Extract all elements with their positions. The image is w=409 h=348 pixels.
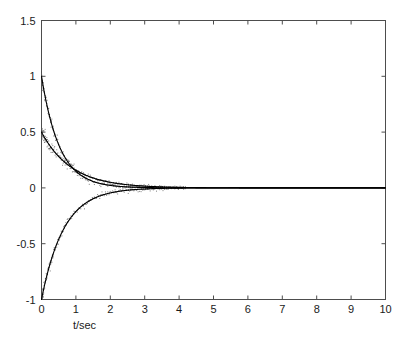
series-marker [77,171,78,172]
series-marker [119,191,120,192]
series-marker [67,221,68,222]
series-marker [109,185,110,186]
scatter-point [45,141,46,142]
scatter-point [133,190,134,191]
scatter-point [117,184,118,185]
scatter-point [53,136,54,137]
series-marker [149,186,150,187]
scatter-point [115,189,116,190]
series-marker [90,180,91,181]
series-marker [132,185,133,186]
series-marker [103,194,104,195]
scatter-point [46,137,47,138]
scatter-point [122,188,123,189]
series-marker [73,214,74,215]
scatter-point [61,231,62,232]
series-marker [122,190,123,191]
series-marker [52,149,53,150]
scatter-point [73,171,74,172]
series-marker [52,254,53,255]
series-marker [166,188,167,189]
series-marker [64,156,65,157]
scatter-point [94,184,95,185]
scatter-point [131,188,132,189]
scatter-point [178,189,179,190]
series-marker [170,188,171,189]
scatter-point [162,190,163,191]
scatter-point [99,198,100,199]
scatter-point [94,196,95,197]
series-marker [120,186,121,187]
scatter-point [139,191,140,192]
x-tick-label: 6 [245,303,251,315]
y-tick-label: -0.5 [17,238,36,250]
series-marker [113,192,114,193]
series-marker [62,231,63,232]
series-marker [81,175,82,176]
scatter-point [118,182,119,183]
x-tick-label: 9 [348,303,354,315]
scatter-point [128,193,129,194]
series-marker [177,188,178,189]
series-marker [141,189,142,190]
scatter-point [77,212,78,213]
scatter-point [129,191,130,192]
series-marker [128,184,129,185]
scatter-point [148,184,149,185]
scatter-point [65,165,66,166]
scatter-point [52,152,53,153]
scatter-point [174,186,175,187]
scatter-point [83,206,84,207]
scatter-point [144,190,145,191]
scatter-point [81,171,82,172]
series-marker [147,186,148,187]
scatter-point [115,184,116,185]
series-marker [124,184,125,185]
scatter-point [102,191,103,192]
scatter-point [63,163,64,164]
scatter-point [56,149,57,150]
scatter-point [144,184,145,185]
x-tick-label: 3 [142,303,148,315]
scatter-point [164,189,165,190]
x-tick-label: 4 [176,303,182,315]
series-marker [153,187,154,188]
series-marker [58,156,59,157]
series-marker [96,197,97,198]
x-tick-label: 10 [379,303,391,315]
series-marker [67,164,68,165]
scatter-point [43,130,44,131]
series-marker [71,216,72,217]
series-marker [79,174,80,175]
series-marker [58,239,59,240]
series-marker [136,185,137,186]
scatter-point [68,161,69,162]
scatter-point [84,208,85,209]
scatter-point [110,191,111,192]
series-marker [109,182,110,183]
x-axis-label: t/sec [73,319,97,331]
scatter-point [71,218,72,219]
scatter-point [73,165,74,166]
scatter-point [112,184,113,185]
series-marker [50,260,51,261]
scatter-point [70,168,71,169]
series-marker [173,188,174,189]
series-marker [83,176,84,177]
scatter-point [90,175,91,176]
scatter-point [65,222,66,223]
scatter-point [57,139,58,140]
x-tick-label: 8 [314,303,320,315]
y-tick-label: -1 [26,294,36,306]
scatter-point [42,128,43,129]
scatter-point [62,165,63,166]
series-marker [117,186,118,187]
series-marker [100,195,101,196]
scatter-point [70,163,71,164]
series-marker [94,181,95,182]
series-marker [149,187,150,188]
series-marker [115,183,116,184]
series-marker [79,208,80,209]
scatter-point [48,140,49,141]
series-marker [160,188,161,189]
